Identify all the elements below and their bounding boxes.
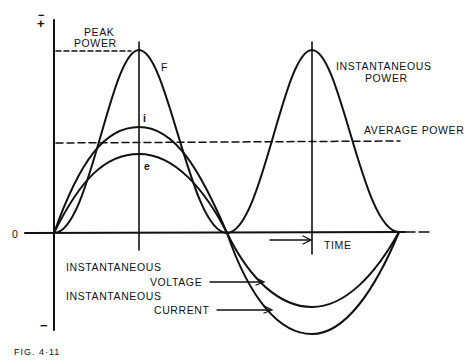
power-waveform-diagram	[0, 0, 470, 364]
power-curve-letter: F	[161, 61, 168, 73]
time-label: TIME	[324, 239, 351, 251]
figure-caption: FIG. 4·11	[14, 346, 60, 358]
average-power-label: AVERAGE POWER	[364, 124, 464, 136]
instantaneous-voltage-label-line1: INSTANTANEOUS	[66, 261, 162, 273]
instantaneous-voltage-label-line2: VOLTAGE	[150, 276, 202, 288]
axis-minus-symbol: −	[40, 320, 48, 332]
instantaneous-voltage-curve	[54, 154, 399, 307]
current-curve-letter: i	[143, 112, 147, 124]
instantaneous-power-label-line1: INSTANTANEOUS	[336, 60, 432, 72]
instantaneous-current-label-line1: INSTANTANEOUS	[66, 290, 162, 302]
time-axis	[25, 232, 405, 233]
peak-power-label-line2: POWER	[74, 37, 117, 49]
voltage-curve-letter: e	[144, 160, 150, 172]
average-power-dashed-line	[56, 141, 400, 143]
instantaneous-power-label-line2: POWER	[365, 72, 408, 84]
axis-zero-label: 0	[12, 228, 18, 240]
instantaneous-current-label-line2: CURRENT	[154, 304, 210, 316]
axis-plus-symbol: +	[37, 18, 45, 30]
